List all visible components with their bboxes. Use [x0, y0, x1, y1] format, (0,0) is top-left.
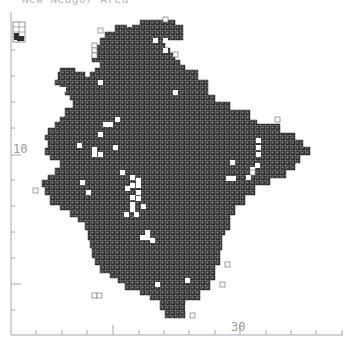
- distribution-region: [33, 17, 310, 318]
- y-axis-label: 10: [13, 142, 27, 156]
- x-axis-label: 30: [231, 320, 245, 334]
- x-axis: [11, 324, 343, 335]
- map-figure: 10 30: [0, 0, 351, 343]
- inset-key: [13, 22, 25, 42]
- y-axis: [11, 12, 21, 335]
